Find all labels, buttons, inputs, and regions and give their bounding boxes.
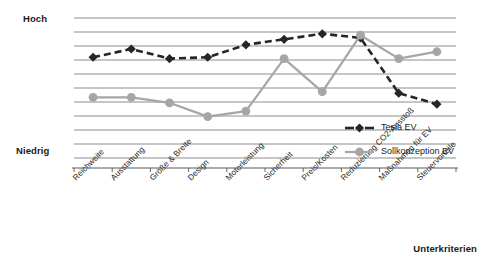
legend-marker-diamond <box>355 123 364 132</box>
legend-item-sollkonzeption[interactable]: Sollkonzeption EV <box>381 146 454 156</box>
chart-container: Hoch Niedrig Unterkriterien ReichweiteAu… <box>0 0 485 279</box>
legend-marker-circle <box>355 148 364 157</box>
legend-item-tesla[interactable]: Tesla EV <box>381 122 417 132</box>
legend-marks <box>0 0 485 279</box>
